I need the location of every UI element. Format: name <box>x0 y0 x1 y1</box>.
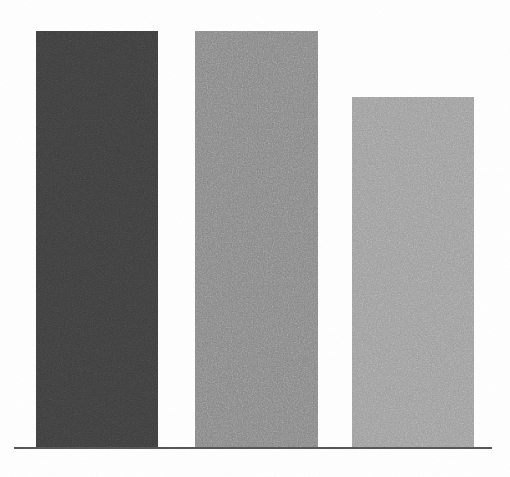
plot-area <box>0 0 510 477</box>
bar-1[interactable] <box>195 31 318 447</box>
bar-1-grain-texture <box>195 31 318 447</box>
bar-0-grain-texture <box>36 31 158 447</box>
bar-2[interactable] <box>352 97 474 447</box>
bar-0[interactable] <box>36 31 158 447</box>
bar-chart <box>0 0 510 477</box>
x-axis-baseline <box>14 447 492 449</box>
bar-2-grain-texture <box>352 97 474 447</box>
